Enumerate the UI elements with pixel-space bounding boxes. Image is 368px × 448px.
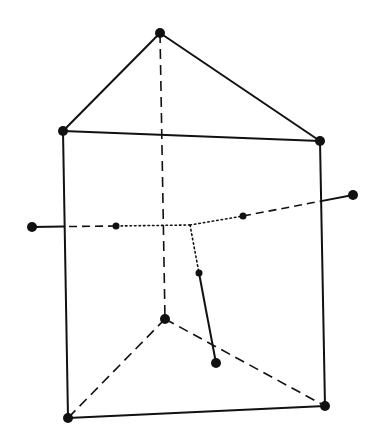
- edge-upper-right-lower-right: [320, 141, 325, 406]
- vertex-lower-back: [160, 314, 170, 324]
- dashed-bond-left: [64, 226, 116, 227]
- edge-top-apex-upper-right: [160, 33, 320, 141]
- edge-upper-left-upper-right: [63, 131, 320, 141]
- hidden-edge-lower-back-lower-right: [165, 319, 325, 406]
- hidden-prism-edges: [68, 33, 325, 418]
- hidden-edge-lower-back-lower-left: [68, 319, 165, 418]
- vertex-lower-right: [320, 401, 330, 411]
- prism-diagram: [0, 0, 368, 448]
- edge-lower-left-lower-right: [68, 406, 325, 418]
- vertex-lower-left: [63, 413, 73, 423]
- vertex-upper-left: [58, 126, 68, 136]
- edge-top-apex-upper-left: [63, 33, 160, 131]
- bond-down: [199, 273, 216, 363]
- molecule: [27, 190, 358, 368]
- outer-atom-right: [348, 190, 358, 200]
- outer-atom-left: [27, 222, 37, 232]
- vertex-top-apex: [155, 28, 165, 38]
- outer-atom-down: [211, 358, 221, 368]
- dotted-bond-right: [190, 216, 243, 225]
- dashed-bond-right: [243, 201, 321, 216]
- diagram-canvas: [0, 0, 368, 448]
- vertex-upper-right: [315, 136, 325, 146]
- inner-atom-down: [196, 270, 203, 277]
- edge-upper-left-lower-left: [63, 131, 68, 418]
- hidden-edge-top-apex-lower-back: [160, 33, 165, 319]
- dotted-bond-down: [190, 225, 199, 273]
- inner-atom-right: [240, 213, 247, 220]
- dotted-bond-left: [116, 225, 190, 226]
- inner-atom-left: [113, 223, 120, 230]
